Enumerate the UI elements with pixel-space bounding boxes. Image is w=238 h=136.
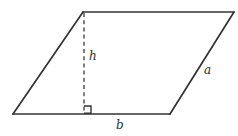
right-angle-marker — [84, 106, 91, 113]
figure-canvas — [0, 0, 238, 136]
edge-right-slant — [170, 12, 234, 114]
base-b-label: b — [116, 119, 124, 131]
side-a-label: a — [204, 64, 211, 76]
height-label: h — [89, 50, 97, 62]
edge-left-slant — [13, 12, 83, 114]
parallelogram-diagram: h a b — [0, 0, 238, 136]
